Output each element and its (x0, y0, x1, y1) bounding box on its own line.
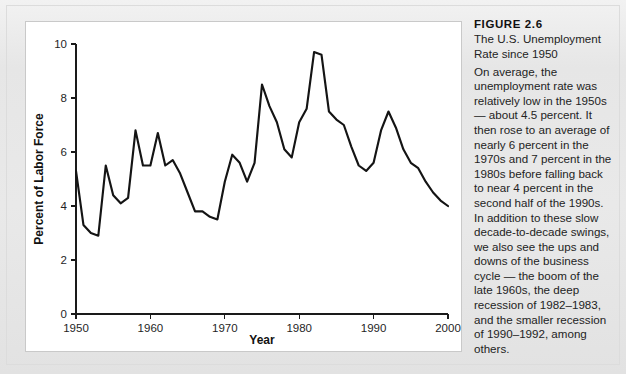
figure-caption: FIGURE 2.6 The U.S. Unemployment Rate si… (474, 17, 614, 356)
figure-number: FIGURE 2.6 (474, 17, 614, 31)
chart-panel: 0246810 195019601970198019902000 Year Pe… (25, 21, 462, 352)
y-tick-label: 2 (61, 254, 67, 266)
y-axis-tick-labels: 0246810 (54, 38, 67, 320)
x-tick-label: 1990 (361, 322, 387, 334)
x-tick-label: 1960 (138, 322, 164, 334)
figure-container: 0246810 195019601970198019902000 Year Pe… (0, 0, 626, 374)
x-tick-label: 1980 (286, 322, 312, 334)
unemployment-series-path (76, 52, 448, 236)
x-tick-label: 1970 (212, 322, 238, 334)
unemployment-line-chart: 0246810 195019601970198019902000 Year Pe… (26, 22, 463, 353)
figure-title: The U.S. Unemployment Rate since 1950 (474, 32, 614, 61)
y-tick-label: 10 (54, 38, 67, 50)
figure-description: On average, the unemployment rate was re… (474, 65, 614, 357)
y-axis-ticks (71, 44, 76, 314)
x-axis-ticks (76, 314, 448, 319)
x-tick-label: 1950 (63, 322, 89, 334)
y-axis-title: Percent of Labor Force (32, 113, 46, 245)
x-tick-label: 2000 (435, 322, 461, 334)
y-tick-label: 4 (61, 200, 68, 212)
y-tick-label: 0 (61, 308, 67, 320)
y-tick-label: 6 (61, 146, 67, 158)
y-tick-label: 8 (61, 92, 67, 104)
x-axis-title: Year (249, 333, 275, 347)
